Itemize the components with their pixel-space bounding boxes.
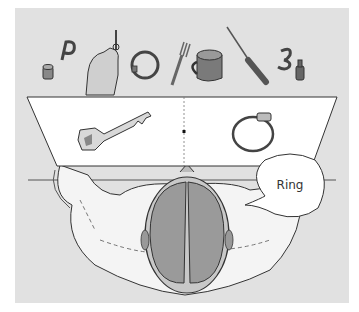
mug-icon — [193, 50, 223, 81]
cylinder-icon — [43, 65, 53, 80]
letter-p-icon — [62, 42, 74, 60]
fixation-point — [183, 130, 186, 133]
bracelet-icon — [132, 52, 158, 78]
split-brain-illustration — [0, 0, 359, 312]
bottle-icon — [296, 60, 304, 80]
number-3-icon — [278, 49, 290, 69]
hand-holding-key-icon — [86, 30, 119, 95]
fork-icon — [172, 42, 190, 85]
screwdriver-icon — [227, 27, 266, 82]
speech-bubble-text: Ring — [270, 178, 310, 192]
